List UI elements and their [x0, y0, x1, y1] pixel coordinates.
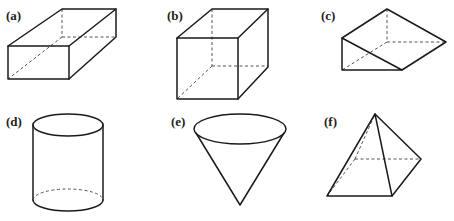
panel-c-triangular-prism: (c): [321, 8, 446, 70]
panel-e-label: (e): [171, 114, 185, 129]
solids-figure: (a) (b) (c) (d) (e): [0, 0, 454, 221]
panel-a-label: (a): [6, 8, 21, 23]
panel-d-label: (d): [6, 114, 22, 129]
panel-b-label: (b): [167, 8, 183, 23]
panel-c-label: (c): [321, 8, 335, 23]
panel-f-square-pyramid: (f): [324, 114, 421, 196]
panel-a-rectangular-prism: (a): [6, 8, 116, 79]
panel-b-cube: (b): [167, 8, 268, 99]
panel-f-label: (f): [324, 114, 337, 129]
panel-d-cylinder: (d): [6, 114, 103, 211]
panel-e-cone: (e): [171, 114, 286, 205]
